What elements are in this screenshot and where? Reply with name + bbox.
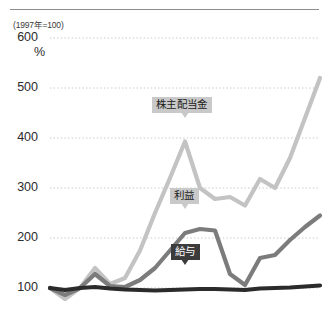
callout-tail-株主配当金 [181,112,189,118]
chart-container: (1997年=100) % 100200300400500600 株主配当金利益… [0,0,329,314]
callout-株主配当金: 株主配当金 [152,97,212,113]
callout-利益: 利益 [170,188,199,204]
callout-tail-給与 [181,259,189,265]
callout-給与: 給与 [171,244,200,260]
chart-plot-area [0,0,329,314]
series-line-給与 [50,286,320,291]
callout-tail-利益 [181,203,189,209]
